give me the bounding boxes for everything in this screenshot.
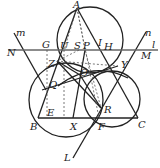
label-P: P — [83, 41, 90, 51]
label-L: L — [64, 153, 71, 163]
label-O: O — [80, 68, 88, 78]
label-B: B — [30, 122, 37, 132]
label-C: C — [138, 120, 146, 130]
label-U: U — [60, 41, 68, 51]
label-Y: Y — [121, 60, 128, 70]
segment-P-X — [73, 50, 85, 118]
label-m: m — [16, 28, 25, 38]
diagram-canvas — [0, 0, 160, 168]
label-l: l — [152, 40, 155, 50]
label-A: A — [73, 0, 80, 10]
label-G: G — [42, 40, 50, 50]
label-E: E — [47, 108, 54, 118]
label-I: I — [98, 38, 102, 48]
label-n: n — [145, 28, 151, 38]
label-H: H — [104, 42, 113, 52]
label-N: N — [7, 48, 16, 58]
label-F: F — [98, 122, 105, 132]
label-S: S — [74, 41, 81, 51]
label-R: R — [104, 105, 112, 115]
label-Z: Z — [48, 59, 55, 69]
geometry-diagram: A m n G U S P I H l N M Z O Y Q B E X R … — [0, 0, 160, 168]
label-Q: Q — [49, 80, 57, 90]
label-M: M — [141, 51, 151, 61]
label-X: X — [70, 122, 77, 132]
